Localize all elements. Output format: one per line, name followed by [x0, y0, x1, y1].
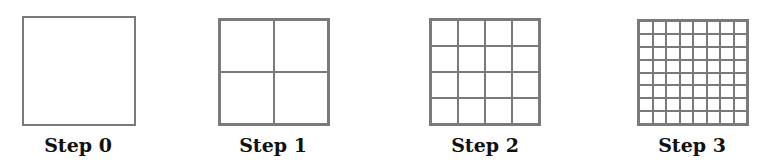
- grid-cell: [485, 72, 512, 98]
- grid-cell: [458, 98, 485, 124]
- grid-cell: [734, 34, 748, 47]
- grid-cell: [666, 47, 680, 60]
- grid-cell: [693, 98, 707, 111]
- step-2-label: Step 2: [415, 134, 555, 156]
- step-2-grid: [429, 18, 541, 126]
- grid-cell: [707, 47, 721, 60]
- step-1-label: Step 1: [203, 134, 343, 156]
- grid-cell: [653, 85, 667, 98]
- grid-cell: [720, 34, 734, 47]
- grid-cell: [707, 60, 721, 73]
- grid-cell: [693, 111, 707, 124]
- grid-cell: [734, 73, 748, 86]
- grid-cell: [666, 73, 680, 86]
- grid-cell: [666, 34, 680, 47]
- grid-cell: [512, 20, 539, 46]
- grid-cell: [639, 85, 653, 98]
- grid-cell: [458, 72, 485, 98]
- grid-cell: [707, 73, 721, 86]
- step-3-grid: [637, 19, 749, 126]
- grid-cell: [666, 111, 680, 124]
- grid-cell: [653, 47, 667, 60]
- grid-cell: [639, 21, 653, 34]
- grid-cell: [707, 34, 721, 47]
- grid-cell: [653, 60, 667, 73]
- grid-cell: [693, 85, 707, 98]
- grid-cell: [220, 20, 274, 72]
- grid-cell: [720, 73, 734, 86]
- grid-cell: [693, 73, 707, 86]
- grid-cell: [666, 60, 680, 73]
- grid-cell: [734, 85, 748, 98]
- grid-cell: [431, 72, 458, 98]
- grid-cell: [707, 98, 721, 111]
- grid-cell: [666, 85, 680, 98]
- grid-cell: [653, 98, 667, 111]
- grid-cell: [274, 72, 328, 124]
- grid-cell: [512, 46, 539, 72]
- grid-cell: [653, 34, 667, 47]
- grid-cell: [734, 60, 748, 73]
- grid-cell: [680, 60, 694, 73]
- grid-cell: [485, 98, 512, 124]
- grid-cell: [666, 98, 680, 111]
- grid-cell: [680, 34, 694, 47]
- grid-cell: [693, 21, 707, 34]
- grid-cell: [458, 20, 485, 46]
- grid-cell: [653, 21, 667, 34]
- grid-cell: [734, 98, 748, 111]
- grid-cell: [512, 72, 539, 98]
- grid-cell: [639, 60, 653, 73]
- grid-cell: [720, 21, 734, 34]
- grid-cell: [639, 73, 653, 86]
- grid-cell: [680, 111, 694, 124]
- grid-cell: [720, 98, 734, 111]
- grid-cell: [485, 20, 512, 46]
- grid-cell: [734, 47, 748, 60]
- grid-cell: [707, 85, 721, 98]
- grid-cell: [431, 98, 458, 124]
- grid-cell: [653, 73, 667, 86]
- grid-cell: [680, 98, 694, 111]
- grid-cell: [639, 34, 653, 47]
- grid-cell: [639, 47, 653, 60]
- step-0-square: [22, 16, 136, 126]
- grid-cell: [680, 21, 694, 34]
- grid-cell: [707, 111, 721, 124]
- grid-cell: [666, 21, 680, 34]
- grid-cell: [720, 85, 734, 98]
- grid-cell: [734, 21, 748, 34]
- grid-cell: [274, 20, 328, 72]
- grid-cell: [639, 98, 653, 111]
- grid-cell: [720, 47, 734, 60]
- step-1-grid: [218, 18, 330, 126]
- grid-cell: [512, 98, 539, 124]
- grid-cell: [485, 46, 512, 72]
- grid-cell: [680, 85, 694, 98]
- grid-cell: [720, 60, 734, 73]
- grid-cell: [680, 73, 694, 86]
- grid-cell: [639, 111, 653, 124]
- step-0-label: Step 0: [8, 134, 148, 156]
- grid-cell: [720, 111, 734, 124]
- grid-cell: [707, 21, 721, 34]
- grid-cell: [680, 47, 694, 60]
- grid-cell: [693, 34, 707, 47]
- grid-cell: [220, 72, 274, 124]
- step-3-label: Step 3: [622, 134, 759, 156]
- grid-cell: [693, 60, 707, 73]
- grid-cell: [693, 47, 707, 60]
- grid-cell: [431, 46, 458, 72]
- grid-cell: [653, 111, 667, 124]
- grid-cell: [734, 111, 748, 124]
- grid-cell: [458, 46, 485, 72]
- grid-cell: [431, 20, 458, 46]
